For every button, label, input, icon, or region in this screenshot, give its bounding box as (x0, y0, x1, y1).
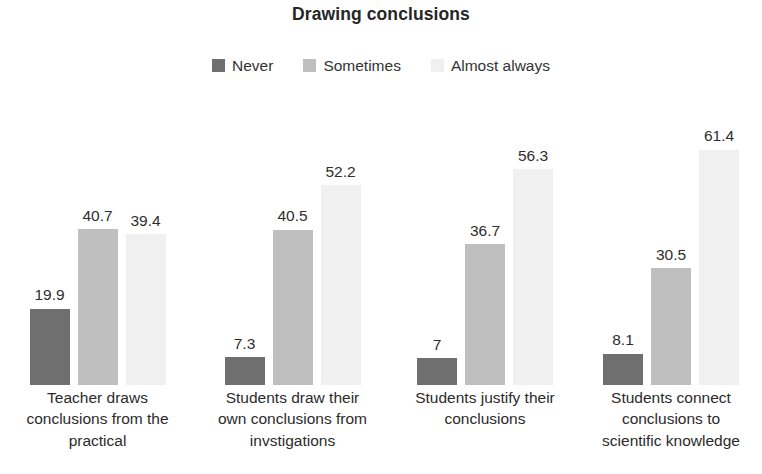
bar-sometimes[interactable] (78, 229, 118, 385)
bar-slot: 39.4 (126, 95, 166, 385)
category-label-line: Students justify their (392, 387, 578, 408)
bar-slot: 40.7 (78, 95, 118, 385)
bar-slot: 8.1 (603, 95, 643, 385)
bar-value-label: 52.2 (325, 164, 355, 180)
category-axis: Teacher drawsconclusions from thepractic… (0, 387, 762, 474)
category-label-line: scientific knowledge (582, 430, 760, 451)
category-label-line: own conclusions from (197, 408, 388, 429)
legend-item-never[interactable]: Never (212, 58, 273, 74)
bar-value-label: 7 (433, 337, 442, 353)
bar-value-label: 30.5 (656, 247, 686, 263)
legend-item-almost-always[interactable]: Almost always (431, 58, 550, 74)
bar-group: 8.130.561.4 (580, 95, 762, 385)
bar-never[interactable] (603, 354, 643, 385)
legend-swatch-icon (212, 59, 225, 72)
plot-area: 19.940.739.47.340.552.2736.756.38.130.56… (0, 95, 762, 385)
bar-value-label: 40.7 (82, 208, 112, 224)
bar-slot: 36.7 (465, 95, 505, 385)
bar-slot: 7.3 (225, 95, 265, 385)
bar-value-label: 36.7 (470, 223, 500, 239)
category-label-line: conclusions from the (2, 408, 193, 429)
legend-item-sometimes[interactable]: Sometimes (303, 58, 401, 74)
category-label-line: Students connect (582, 387, 760, 408)
category-label-line: conclusions (392, 408, 578, 429)
bar-slot: 40.5 (273, 95, 313, 385)
bar-sometimes[interactable] (465, 244, 505, 385)
category-label: Teacher drawsconclusions from thepractic… (0, 387, 195, 451)
category-label-line: practical (2, 430, 193, 451)
category-label-line: conclusions to (582, 408, 760, 429)
bar-group: 19.940.739.4 (0, 95, 195, 385)
category-label: Students connectconclusions toscientific… (580, 387, 762, 451)
bar-value-label: 8.1 (612, 332, 634, 348)
bar-slot: 30.5 (651, 95, 691, 385)
bar-sometimes[interactable] (273, 230, 313, 385)
bar-slot: 7 (417, 95, 457, 385)
legend-swatch-icon (303, 59, 316, 72)
category-label-line: Teacher draws (2, 387, 193, 408)
bar-value-label: 61.4 (704, 128, 734, 144)
bar-slot: 19.9 (30, 95, 70, 385)
bar-almost-always[interactable] (699, 150, 739, 385)
category-label-line: Students draw their (197, 387, 388, 408)
bar-almost-always[interactable] (321, 185, 361, 385)
bar-chart: Drawing conclusions NeverSometimesAlmost… (0, 0, 762, 474)
category-label: Students justify theirconclusions (390, 387, 580, 430)
bar-almost-always[interactable] (126, 234, 166, 385)
legend-swatch-icon (431, 59, 444, 72)
bar-sometimes[interactable] (651, 268, 691, 385)
category-label-line: invstigations (197, 430, 388, 451)
legend-item-label: Sometimes (323, 58, 401, 74)
chart-legend: NeverSometimesAlmost always (0, 58, 762, 74)
bar-value-label: 19.9 (34, 287, 64, 303)
bar-group: 736.756.3 (390, 95, 580, 385)
bar-value-label: 7.3 (234, 336, 256, 352)
bar-value-label: 39.4 (130, 213, 160, 229)
chart-title: Drawing conclusions (0, 4, 762, 25)
bar-slot: 52.2 (321, 95, 361, 385)
legend-item-label: Almost always (451, 58, 550, 74)
bar-slot: 56.3 (513, 95, 553, 385)
legend-item-label: Never (232, 58, 273, 74)
bar-never[interactable] (417, 358, 457, 385)
bar-never[interactable] (225, 357, 265, 385)
category-label: Students draw theirown conclusions fromi… (195, 387, 390, 451)
bar-value-label: 40.5 (277, 208, 307, 224)
bar-value-label: 56.3 (518, 148, 548, 164)
bar-almost-always[interactable] (513, 169, 553, 385)
bar-slot: 61.4 (699, 95, 739, 385)
bar-never[interactable] (30, 309, 70, 385)
bar-group: 7.340.552.2 (195, 95, 390, 385)
